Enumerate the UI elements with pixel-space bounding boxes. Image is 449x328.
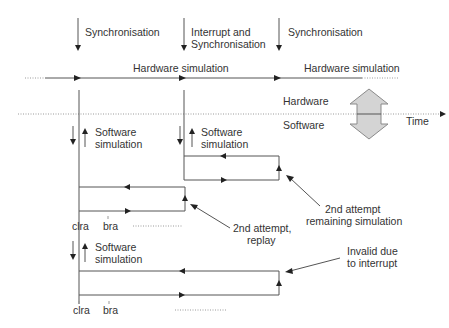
bra-label-1: bra [103,220,118,232]
clra-label-1: clra [72,220,89,232]
clra-label-2: clra [73,304,90,316]
time-label: Time [406,115,429,127]
software-sim-label-2b: simulation [201,138,248,150]
hardware-timeline [25,75,398,81]
software-sim-label-1b: simulation [95,138,142,150]
remaining-annotation-line1: 2nd attempt [325,203,381,215]
interrupt-label-line1: Interrupt and [191,26,251,38]
sync-arrow-2 [276,18,282,51]
sync-label-2: Synchronisation [288,26,363,38]
hardware-domain-label: Hardware [283,95,329,107]
interrupt-label-line2: Synchronisation [191,38,266,50]
remaining-sim-loop [184,153,282,183]
sw-updown-arrows-2 [177,126,195,147]
diagram-canvas: Synchronisation Interrupt and Synchronis… [0,0,449,328]
invalid-pointer [285,258,340,274]
invalid-annotation-line1: Invalid due [347,245,398,257]
remaining-pointer [286,175,320,206]
invalid-loop [79,268,282,298]
software-sim-label-1a: Software [95,126,137,138]
software-sim-label-3b: simulation [95,253,142,265]
sync-label-1: Synchronisation [85,26,160,38]
hardware-sim-label-1: Hardware simulation [133,62,229,74]
interrupt-sync-arrow [181,18,187,51]
bra-label-2: bra [103,304,118,316]
replay-annotation-line1: 2nd attempt, [233,222,291,234]
time-axis [18,111,446,117]
replay-pointer [190,204,230,228]
software-sim-label-3a: Software [95,241,137,253]
remaining-annotation-line2: remaining simulation [306,215,402,227]
replay-loop [79,184,188,214]
software-domain-label: Software [283,119,325,131]
replay-annotation-line2: replay [247,234,276,246]
invalid-annotation-line2: to interrupt [347,257,397,269]
hardware-sim-label-2: Hardware simulation [304,62,400,74]
sync-arrow-1 [75,18,81,51]
software-sim-label-2a: Software [201,126,243,138]
